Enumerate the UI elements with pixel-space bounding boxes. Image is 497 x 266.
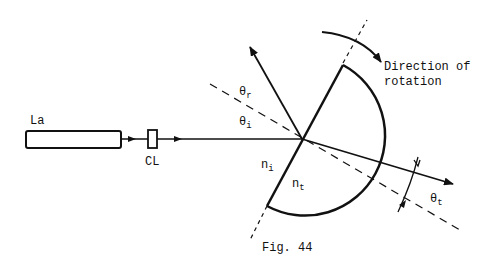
refraction-diagram: La CL Direction of rotation θr θi θt ni …: [0, 0, 497, 266]
prism-flat-face: [267, 65, 343, 206]
theta-t-label: θt: [430, 192, 443, 208]
figure-caption: Fig. 44: [262, 241, 312, 255]
cylindrical-lens: [148, 130, 157, 148]
laser-label: La: [30, 114, 44, 128]
interface-extension-bottom: [250, 206, 267, 240]
incident-arrow-icon: [174, 136, 182, 142]
rotation-label-line1: Direction of: [384, 60, 470, 74]
prism-curved-face: [267, 65, 385, 216]
reflected-beam: [250, 47, 302, 139]
lens-label: CL: [145, 155, 159, 169]
laser-body: [26, 131, 121, 148]
theta-r-label: θr: [239, 85, 252, 101]
theta-i-label: θi: [239, 115, 252, 131]
surface-normal: [210, 84, 460, 230]
n-t-label: nt: [292, 177, 305, 193]
rotation-label-line2: rotation: [384, 75, 442, 89]
beam-arrow-icon: [128, 136, 136, 142]
transmitted-beam: [302, 139, 453, 184]
n-i-label: ni: [261, 158, 274, 174]
